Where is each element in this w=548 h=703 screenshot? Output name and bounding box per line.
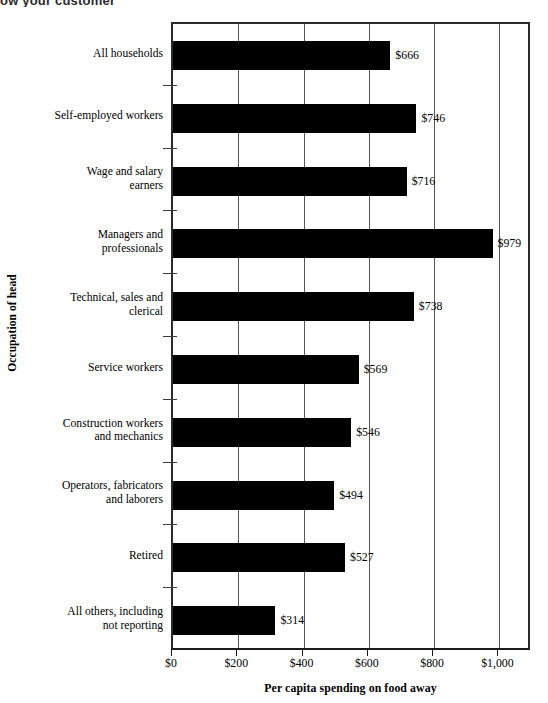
plot-inner: $666$746$716$979$738$569$546$494$527$314 (173, 24, 528, 648)
y-axis-title: Occupation of head (2, 228, 22, 418)
y-axis-category-label: Operators, fabricatorsand laborers (24, 479, 163, 506)
y-axis-tick (163, 587, 177, 588)
bar-value-label: $979 (498, 229, 522, 258)
y-axis-category-label-line: not reporting (24, 619, 163, 633)
y-axis-category-label-line: Construction workers (24, 417, 163, 431)
bar (173, 104, 416, 133)
bar (173, 606, 275, 635)
y-axis-category-label-line: Technical, sales and (24, 291, 163, 305)
x-axis-tick-label: $800 (420, 656, 444, 671)
y-axis-category-label-line: All households (24, 47, 163, 61)
bar-value-label: $746 (421, 104, 445, 133)
page-header-cutoff: ow your customer (0, 0, 200, 7)
bar-value-label: $494 (339, 481, 363, 510)
y-axis-tick (163, 210, 177, 211)
y-axis-category-label: Construction workersand mechanics (24, 417, 163, 444)
y-axis-tick (163, 524, 177, 525)
y-axis-category-labels: All householdsSelf-employed workersWage … (24, 22, 167, 650)
y-axis-tick (163, 399, 177, 400)
bar-value-label: $716 (412, 167, 436, 196)
y-axis-tick (163, 336, 177, 337)
bar-value-label: $527 (350, 543, 374, 572)
y-axis-category-label-line: Retired (24, 549, 163, 563)
y-axis-category-label: Wage and salaryearners (24, 165, 163, 192)
y-axis-category-label-line: All others, including (24, 605, 163, 619)
x-axis-tick-label: $0 (165, 656, 177, 671)
bar-value-label: $546 (356, 418, 380, 447)
y-axis-category-label-line: Wage and salary (24, 165, 163, 179)
y-axis-category-label-line: Self-employed workers (24, 109, 163, 123)
bar (173, 292, 414, 321)
y-axis-category-label-line: professionals (24, 242, 163, 256)
y-axis-title-text: Occupation of head (6, 274, 18, 372)
y-axis-category-label: Retired (24, 549, 163, 563)
y-axis-tick (163, 85, 177, 86)
y-axis-tick (163, 148, 177, 149)
page-header-text: ow your customer (0, 0, 200, 7)
y-axis-category-label-line: clerical (24, 305, 163, 319)
x-axis-tick-label: $400 (290, 656, 314, 671)
y-axis-category-label: All others, includingnot reporting (24, 605, 163, 632)
y-axis-category-label-line: and mechanics (24, 430, 163, 444)
bar-value-label: $666 (395, 41, 419, 70)
y-axis-category-label: Managers andprofessionals (24, 228, 163, 255)
y-axis-category-label-line: earners (24, 179, 163, 193)
y-axis-category-label-line: Operators, fabricators (24, 479, 163, 493)
bar (173, 355, 359, 384)
y-axis-tick (163, 462, 177, 463)
chart-page: ow your customer Occupation of head All … (0, 0, 548, 703)
bar-value-label: $569 (364, 355, 388, 384)
gridline-1000 (499, 24, 500, 648)
bar (173, 418, 351, 447)
x-axis-tick-label: $600 (355, 656, 379, 671)
y-axis-category-label: Self-employed workers (24, 109, 163, 123)
bar (173, 41, 390, 70)
bar (173, 481, 334, 510)
bar (173, 167, 407, 196)
y-axis-category-label: Service workers (24, 361, 163, 375)
x-axis-tick-label: $1,000 (481, 656, 513, 671)
y-axis-category-label: Technical, sales andclerical (24, 291, 163, 318)
y-axis-category-label-line: Service workers (24, 361, 163, 375)
y-axis-category-label-line: Managers and (24, 228, 163, 242)
bar-value-label: $314 (280, 606, 304, 635)
x-axis-title: Per capita spending on food away (171, 681, 530, 696)
y-axis-category-label-line: and laborers (24, 493, 163, 507)
bar (173, 229, 493, 258)
bar-value-label: $738 (419, 292, 443, 321)
y-axis-category-label: All households (24, 47, 163, 61)
y-axis-tick (163, 273, 177, 274)
plot-area: $666$746$716$979$738$569$546$494$527$314 (171, 22, 530, 650)
bar (173, 543, 345, 572)
x-axis-tick-label: $200 (224, 656, 248, 671)
